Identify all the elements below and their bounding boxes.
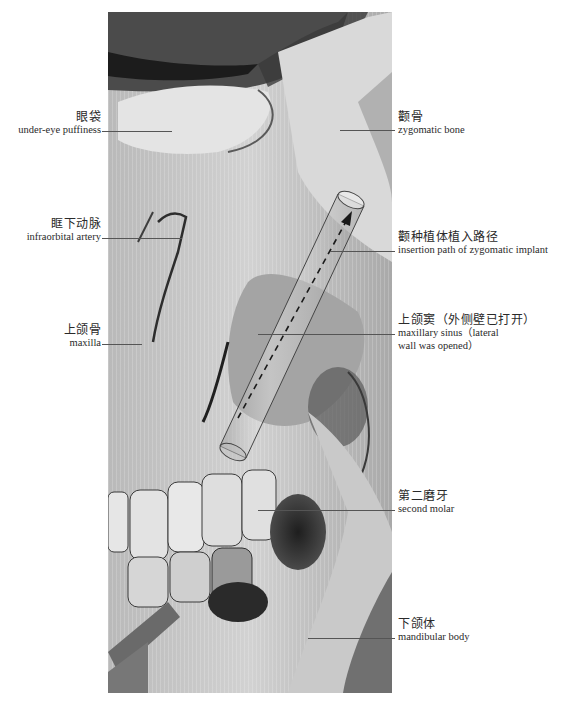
label-zh: 眼袋 <box>18 110 101 124</box>
label-under-eye-puffiness: 眼袋 under-eye puffiness <box>18 110 101 137</box>
label-infraorbital-artery: 眶下动脉 infraorbital artery <box>27 217 101 244</box>
leader-maxillary-sinus <box>258 334 395 335</box>
label-mandibular-body: 下颌体 mandibular body <box>398 617 469 644</box>
leader-insertion-path <box>330 251 395 252</box>
label-zh: 颧种植体植入路径 <box>398 230 548 244</box>
label-maxillary-sinus: 上颌窦（外侧壁已打开） maxillary sinus（lateral wall… <box>398 313 536 353</box>
leader-maxilla <box>102 344 142 345</box>
leader-infraorbital-artery <box>102 238 182 239</box>
label-zh: 第二磨牙 <box>398 489 454 503</box>
label-en: under-eye puffiness <box>18 124 101 137</box>
anatomy-figure: 眼袋 under-eye puffiness 眶下动脉 infraorbital… <box>0 0 567 710</box>
label-en: mandibular body <box>398 631 469 644</box>
label-en: insertion path of zygomatic implant <box>398 244 548 257</box>
leader-mandibular-body <box>308 638 395 639</box>
label-en: zygomatic bone <box>398 124 465 137</box>
label-zh: 眶下动脉 <box>27 217 101 231</box>
label-en: second molar <box>398 503 454 516</box>
label-insertion-path: 颧种植体植入路径 insertion path of zygomatic imp… <box>398 230 548 257</box>
label-second-molar: 第二磨牙 second molar <box>398 489 454 516</box>
dissection-photo <box>108 12 392 693</box>
leader-second-molar <box>258 510 395 511</box>
label-zh: 上颌骨 <box>64 323 102 337</box>
label-zh: 上颌窦（外侧壁已打开） <box>398 313 536 327</box>
label-zh: 颧骨 <box>398 110 465 124</box>
label-en-line2: wall was opened） <box>398 340 536 353</box>
label-en: maxilla <box>64 337 102 350</box>
label-zygomatic-bone: 颧骨 zygomatic bone <box>398 110 465 137</box>
label-zh: 下颌体 <box>398 617 469 631</box>
label-maxilla: 上颌骨 maxilla <box>64 323 102 350</box>
leader-zygomatic-bone <box>340 130 395 131</box>
leader-under-eye-puffiness <box>102 131 172 132</box>
label-en: infraorbital artery <box>27 231 101 244</box>
label-en-line1: maxillary sinus（lateral <box>398 327 536 340</box>
